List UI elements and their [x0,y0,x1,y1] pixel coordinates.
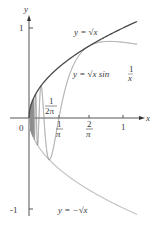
label-osc-frac-den: x [127,73,132,83]
label-osc-main: y = √x sin [72,69,110,79]
y-tick-label-neg1: -1 [10,205,18,215]
x-tick-label-2-over-pi-num: 2 [87,119,92,129]
label-sqrt-x: y = √x [73,27,98,37]
x-tick-label-1-over-pi-den: π [56,129,61,139]
y-axis-label: y [23,4,28,14]
x-tick-label-1-over-pi-num: 1 [57,119,62,129]
x-axis-label: x [145,113,150,123]
annotation-den: 2π [45,106,55,116]
origin-label: 0 [19,123,24,133]
annotation-num: 1 [49,96,54,106]
graph-canvas: y x 0 1 -1 1 π 2 π 1 1 2π y = √x y = √x … [0,0,157,227]
x-tick-label-2-over-pi-den: π [86,129,91,139]
label-neg-sqrt-x: y = −√x [57,205,88,215]
y-tick-label-1: 1 [19,23,24,33]
curve-sqrt-x-sin-inv-x [31,41,137,159]
x-axis-arrow-icon [139,116,145,120]
y-axis-arrow-icon [27,15,31,21]
x-tick-label-1: 1 [121,122,126,132]
